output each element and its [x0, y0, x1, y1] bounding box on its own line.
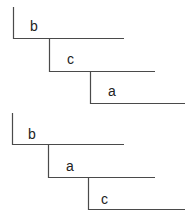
staircase-diagrams: b c a b a c [0, 0, 186, 217]
staircase-diagram-2: b a c [13, 113, 186, 210]
step-label: c [101, 191, 108, 207]
step-label: a [66, 158, 74, 174]
staircase-diagram-1: b c a [14, 7, 186, 104]
step-line [49, 145, 156, 178]
step-line [91, 72, 186, 104]
step-label: b [28, 126, 36, 142]
step-line [50, 39, 156, 72]
step-label: a [108, 83, 116, 99]
step-label: b [30, 18, 38, 34]
step-label: c [67, 51, 74, 67]
